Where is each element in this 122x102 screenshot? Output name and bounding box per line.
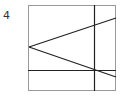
lower-ray	[29, 47, 116, 77]
geometry-diagram	[0, 0, 122, 102]
upper-ray	[29, 18, 116, 47]
frame-box	[29, 6, 116, 91]
